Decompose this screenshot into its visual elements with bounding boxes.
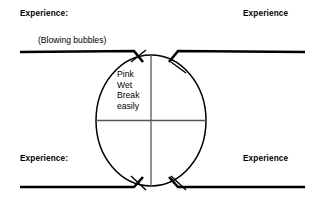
center-concept-line-2: Wet bbox=[117, 80, 139, 91]
rail-bottom-right bbox=[169, 177, 305, 187]
diagram-canvas: Experience: Experience Experience: Exper… bbox=[0, 0, 318, 207]
center-concept-text: Pink Wet Break easily bbox=[117, 69, 139, 111]
label-experience-bottom-right: Experience bbox=[243, 155, 288, 163]
label-experience-top-right: Experience bbox=[243, 10, 288, 18]
rail-top-left bbox=[20, 51, 143, 62]
center-concept-line-4: easily bbox=[117, 101, 139, 112]
rail-top-right bbox=[169, 51, 305, 62]
center-concept-line-1: Pink bbox=[117, 69, 139, 80]
annotation-blowing-bubbles: (Blowing bubbles) bbox=[38, 36, 106, 45]
diagram-graphics bbox=[0, 0, 318, 207]
label-experience-top-left: Experience: bbox=[20, 10, 68, 18]
center-concept-line-3: Break bbox=[117, 90, 139, 101]
label-experience-bottom-left: Experience: bbox=[20, 155, 68, 163]
